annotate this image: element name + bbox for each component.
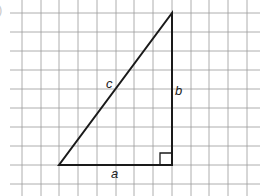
grid-canvas xyxy=(0,0,260,196)
label-hypotenuse-c: c xyxy=(106,77,113,90)
square-grid xyxy=(10,0,260,196)
right-angle-marker xyxy=(160,153,172,165)
label-leg-a: a xyxy=(111,167,118,180)
label-leg-b: b xyxy=(175,84,182,97)
